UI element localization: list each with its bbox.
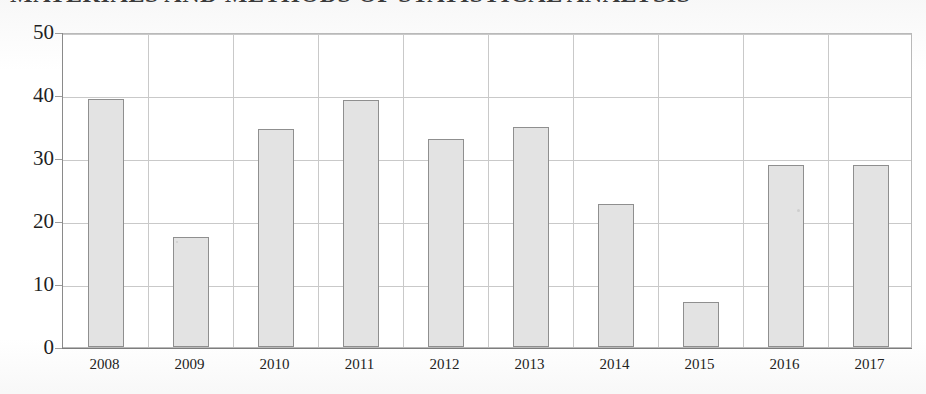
y-axis-line <box>62 33 63 348</box>
y-axis-tick-mark <box>55 285 62 286</box>
bar-2008[interactable] <box>88 99 124 347</box>
y-axis-tick-label: 30 <box>8 148 54 169</box>
bar-2017[interactable] <box>853 165 889 347</box>
bar-2014[interactable] <box>598 204 634 347</box>
x-axis-baseline <box>62 348 912 349</box>
x-axis-tick-label-2008: 2008 <box>65 356 145 373</box>
bar-2016[interactable] <box>768 165 804 347</box>
y-axis-tick-label: 50 <box>8 22 54 43</box>
bar-2009[interactable] <box>173 237 209 347</box>
x-axis-tick-label-2010: 2010 <box>235 356 315 373</box>
x-axis-tick-label-2011: 2011 <box>320 356 400 373</box>
y-axis-labels: 01020304050 <box>0 0 54 394</box>
y-axis-tick-mark <box>55 33 62 34</box>
y-axis-tick-mark <box>55 96 62 97</box>
x-axis-tick-label-2016: 2016 <box>745 356 825 373</box>
gridline-vertical <box>148 34 149 347</box>
gridline-vertical <box>403 34 404 347</box>
bar-2011[interactable] <box>343 100 379 347</box>
y-axis-tick-label: 0 <box>8 337 54 358</box>
scan-speck <box>176 241 178 243</box>
gridline-vertical <box>573 34 574 347</box>
x-axis-tick-label-2014: 2014 <box>575 356 655 373</box>
x-axis-tick-label-2017: 2017 <box>830 356 910 373</box>
y-axis-tick-mark <box>55 222 62 223</box>
gridline-vertical <box>318 34 319 347</box>
gridline-horizontal <box>63 97 911 98</box>
bar-2013[interactable] <box>513 127 549 347</box>
bar-2012[interactable] <box>428 139 464 347</box>
y-axis-tick-mark <box>55 159 62 160</box>
x-axis-tick-label-2013: 2013 <box>490 356 570 373</box>
y-axis-tick-mark <box>55 348 62 349</box>
gridline-horizontal <box>63 160 911 161</box>
gridline-vertical <box>743 34 744 347</box>
y-axis-tick-label: 20 <box>8 211 54 232</box>
y-axis-tick-label: 40 <box>8 85 54 106</box>
gridline-vertical <box>233 34 234 347</box>
gridline-horizontal <box>63 34 911 35</box>
gridline-vertical <box>488 34 489 347</box>
y-axis-tick-label: 10 <box>8 274 54 295</box>
gridline-vertical <box>828 34 829 347</box>
x-axis-tick-label-2015: 2015 <box>660 356 740 373</box>
bar-2010[interactable] <box>258 129 294 347</box>
x-axis-tick-label-2009: 2009 <box>150 356 230 373</box>
gridline-vertical <box>658 34 659 347</box>
bar-chart: 01020304050 2008200920102011201220132014… <box>0 0 926 394</box>
scan-speck <box>797 209 800 212</box>
plot-area <box>62 33 912 348</box>
bar-2015[interactable] <box>683 302 719 347</box>
x-axis-tick-label-2012: 2012 <box>405 356 485 373</box>
